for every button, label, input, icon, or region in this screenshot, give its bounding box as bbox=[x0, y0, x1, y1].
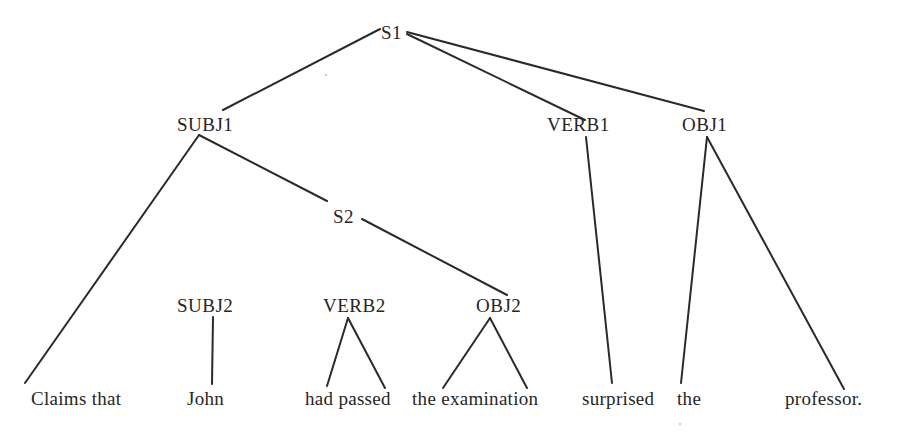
node-subj2: SUBJ2 bbox=[177, 296, 233, 315]
leaf-the-examination: the examination bbox=[412, 389, 538, 408]
tree-edges bbox=[0, 0, 905, 432]
print-speck bbox=[325, 74, 327, 76]
leaf-the: the bbox=[677, 389, 701, 408]
edge-verb1-surprised bbox=[586, 137, 612, 383]
node-obj1: OBJ1 bbox=[682, 115, 727, 134]
node-obj2: OBJ2 bbox=[476, 296, 521, 315]
edge-subj2-john bbox=[212, 317, 213, 384]
edge-s1-subj1 bbox=[223, 29, 380, 110]
leaf-surprised: surprised bbox=[582, 389, 654, 408]
node-subj1: SUBJ1 bbox=[177, 115, 233, 134]
edge-verb2-passed bbox=[348, 318, 385, 388]
edge-subj1-claims bbox=[25, 135, 199, 383]
node-s1: S1 bbox=[381, 23, 402, 42]
node-verb2: VERB2 bbox=[323, 296, 386, 315]
edge-obj2-examination bbox=[490, 318, 527, 388]
edge-obj1-professor bbox=[707, 137, 844, 389]
leaf-had-passed: had passed bbox=[305, 389, 391, 408]
edge-s2-obj2 bbox=[362, 219, 507, 295]
edge-verb2-had bbox=[327, 318, 348, 386]
edge-s1-obj1 bbox=[407, 32, 704, 111]
leaf-claims-that: Claims that bbox=[31, 389, 121, 408]
print-speck bbox=[679, 423, 681, 425]
edge-obj2-the bbox=[443, 318, 490, 388]
leaf-john: John bbox=[187, 389, 224, 408]
edge-s1-verb1 bbox=[407, 34, 585, 120]
edge-subj1-s2 bbox=[199, 135, 327, 201]
node-verb1: VERB1 bbox=[547, 115, 610, 134]
leaf-professor: professor. bbox=[785, 389, 862, 408]
node-s2: S2 bbox=[333, 207, 354, 226]
syntax-tree-diagram: S1 SUBJ1 VERB1 OBJ1 S2 SUBJ2 VERB2 OBJ2 … bbox=[0, 0, 905, 432]
edge-obj1-the bbox=[681, 137, 707, 383]
